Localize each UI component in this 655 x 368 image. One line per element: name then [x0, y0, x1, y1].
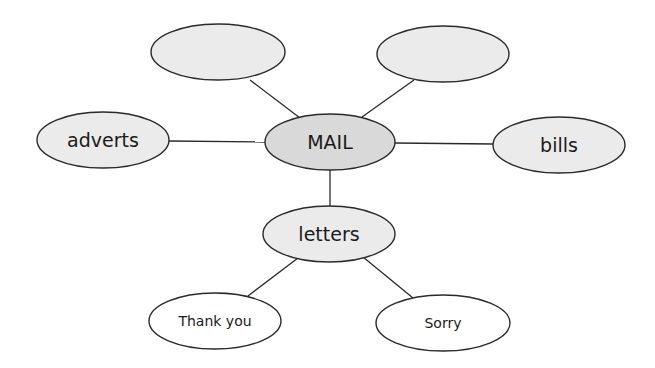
node-bills-label: bills	[540, 134, 578, 156]
node-letters-label: letters	[298, 223, 359, 245]
edge-letters-thankyou	[248, 258, 298, 296]
edge-mail-topleft	[250, 80, 300, 118]
node-mail-center: MAIL	[265, 114, 395, 170]
edge-letters-sorry	[363, 257, 413, 298]
edge-mail-topright	[362, 80, 414, 117]
node-thank-you-label: Thank you	[177, 313, 251, 329]
node-bills: bills	[493, 117, 625, 173]
mind-map-diagram: adverts MAIL bills letters Thank you Sor…	[0, 0, 655, 368]
node-adverts: adverts	[37, 112, 169, 168]
edge-mail-adverts	[169, 141, 265, 142]
node-adverts-label: adverts	[67, 129, 139, 151]
connectors	[169, 80, 493, 298]
node-top-left-empty	[151, 24, 285, 80]
node-mail-label: MAIL	[307, 131, 353, 153]
node-letters: letters	[263, 206, 395, 262]
node-sorry: Sorry	[376, 295, 510, 351]
node-thank-you: Thank you	[149, 293, 281, 349]
edge-mail-bills	[395, 143, 493, 144]
node-sorry-label: Sorry	[424, 315, 461, 331]
node-top-right-empty	[377, 26, 509, 82]
